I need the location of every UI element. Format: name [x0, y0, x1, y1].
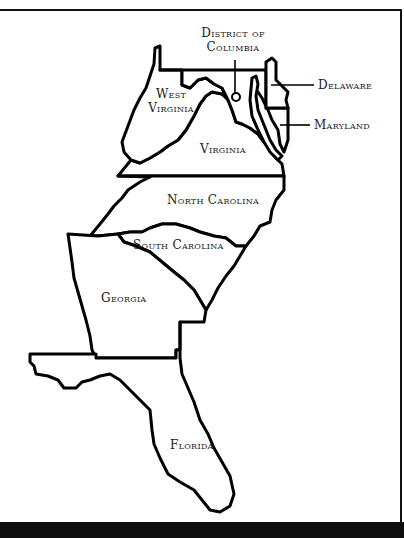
label-dc-line2: Columbia — [185, 40, 281, 54]
label-west-virginia-line1: West — [143, 87, 199, 101]
label-virginia: Virginia — [200, 142, 246, 156]
label-west-virginia: West Virginia — [143, 87, 199, 115]
label-maryland: Maryland — [314, 118, 370, 132]
dc-marker[interactable] — [232, 93, 240, 101]
label-north-carolina: North Carolina — [167, 193, 259, 207]
map-frame: District of Columbia Delaware Maryland W… — [0, 0, 404, 538]
state-delaware[interactable] — [266, 58, 288, 108]
label-delaware: Delaware — [318, 78, 372, 92]
footer-band — [0, 522, 404, 538]
label-georgia: Georgia — [101, 291, 146, 305]
label-district-of-columbia: District of Columbia — [185, 26, 281, 54]
label-south-carolina: South Carolina — [133, 238, 224, 252]
label-florida: Florida — [170, 438, 214, 452]
label-west-virginia-line2: Virginia — [143, 101, 199, 115]
label-dc-line1: District of — [185, 26, 281, 40]
